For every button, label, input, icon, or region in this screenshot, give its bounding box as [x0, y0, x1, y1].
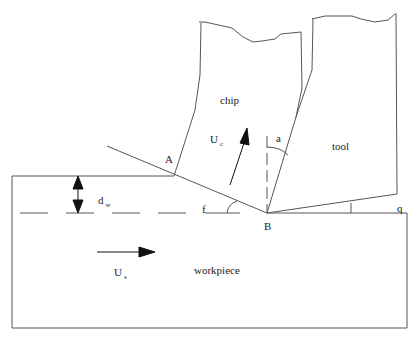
chip-velocity-symbol: U: [210, 133, 218, 145]
workpiece-velocity-symbol: U: [114, 266, 122, 278]
cutting-diagram: [0, 0, 417, 337]
depth-label: dw: [98, 195, 111, 209]
chip-label: chip: [220, 95, 239, 106]
point-b-label: B: [264, 221, 271, 232]
workpiece-velocity-label: Us: [114, 267, 127, 281]
workpiece-velocity-subscript: s: [124, 273, 127, 281]
depth-arrow: [73, 176, 83, 213]
shear-angle-label: f: [202, 204, 206, 215]
chip-velocity-arrow: [230, 128, 249, 185]
depth-symbol: d: [98, 194, 104, 206]
tool-top-edge: [312, 14, 395, 22]
tool-left-edge: [267, 20, 313, 213]
depth-subscript: w: [106, 201, 111, 209]
tool-right-edge: [396, 13, 397, 194]
chip-top-edge: [199, 22, 301, 42]
chip-velocity-label: Uc: [210, 134, 223, 148]
rake-angle-label: a: [276, 133, 281, 144]
tool-clearance-face: [267, 194, 397, 213]
chip-outline: [174, 23, 201, 176]
workpiece-label: workpiece: [194, 265, 240, 276]
tool-label: tool: [332, 141, 349, 152]
workpiece-velocity-arrow: [97, 247, 155, 257]
chip-right-edge: [296, 32, 302, 117]
workpiece-outline: [12, 176, 407, 328]
point-a-label: A: [165, 154, 173, 165]
chip-velocity-subscript: c: [220, 140, 223, 148]
shear-angle-arc: [227, 201, 237, 213]
shear-plane-line: [107, 146, 267, 213]
clearance-angle-label: q: [397, 203, 403, 214]
